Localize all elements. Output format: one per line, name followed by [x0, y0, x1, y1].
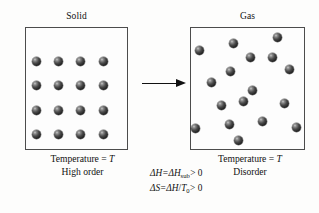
thermodynamic-equations: ΔH=ΔHsub> 0 ΔS=ΔH/T0> 0 [150, 166, 203, 196]
entropy-denominator-subscript: 0 [186, 187, 189, 194]
solid-order-label: High order [25, 165, 140, 178]
arrow-shaft [142, 83, 179, 85]
gas-particle [239, 97, 248, 106]
entropy-numerator: ΔH [166, 183, 178, 193]
enthalpy-rhs-symbol: ΔH [168, 168, 180, 178]
solid-temperature-label: Temperature = T [51, 153, 115, 164]
rightward-arrow-icon [142, 79, 186, 88]
solid-lattice-particle [32, 106, 41, 115]
solid-lattice-particle [32, 130, 41, 139]
gas-particle [258, 117, 267, 126]
solid-lattice-particle [32, 81, 41, 90]
gas-particle [280, 99, 289, 108]
solid-lattice-particle [99, 106, 108, 115]
gas-particle [217, 101, 226, 110]
gas-particle [292, 123, 301, 132]
entropy-equation: ΔS=ΔH/T0> 0 [150, 181, 203, 196]
enthalpy-rhs-subscript: sub [181, 172, 190, 179]
solid-lattice-particle [99, 81, 108, 90]
enthalpy-comparison: > 0 [190, 168, 203, 178]
gas-particle [234, 136, 243, 145]
gas-particle [229, 39, 238, 48]
figure-canvas: Solid Gas Temperature = T High order Tem… [0, 0, 319, 213]
gas-caption: Temperature = T Disorder [190, 152, 310, 178]
entropy-lhs: ΔS [150, 183, 160, 193]
arrow-head [176, 79, 186, 87]
solid-lattice-particle [54, 57, 63, 66]
solid-lattice-particle [76, 106, 85, 115]
solid-lattice-particle [76, 130, 85, 139]
gas-particle [246, 53, 255, 62]
temperature-variable: T [277, 153, 282, 164]
gas-particle [207, 78, 216, 87]
gas-temperature-label: Temperature = T [218, 153, 282, 164]
gas-particle [248, 86, 257, 95]
solid-lattice-particle [54, 130, 63, 139]
gas-panel-title: Gas [190, 11, 305, 22]
entropy-comparison: > 0 [190, 183, 203, 193]
solid-lattice-particle [99, 130, 108, 139]
enthalpy-equation: ΔH=ΔHsub> 0 [150, 166, 203, 181]
solid-caption: Temperature = T High order [25, 152, 140, 178]
solid-lattice-particle [32, 57, 41, 66]
gas-particle [273, 33, 282, 42]
solid-lattice-particle [54, 106, 63, 115]
gas-disorder-label: Disorder [190, 165, 310, 178]
gas-particle [226, 67, 235, 76]
solid-lattice-particle [76, 57, 85, 66]
gas-particle [225, 120, 234, 129]
gas-particle [191, 124, 200, 133]
gas-particle [195, 46, 204, 55]
solid-panel-title: Solid [25, 11, 128, 22]
temperature-variable: T [109, 153, 114, 164]
gas-particle [285, 65, 294, 74]
solid-lattice-particle [54, 81, 63, 90]
solid-lattice-particle [76, 81, 85, 90]
solid-lattice-particle [99, 57, 108, 66]
gas-particle [268, 53, 277, 62]
enthalpy-lhs: ΔH [150, 168, 162, 178]
